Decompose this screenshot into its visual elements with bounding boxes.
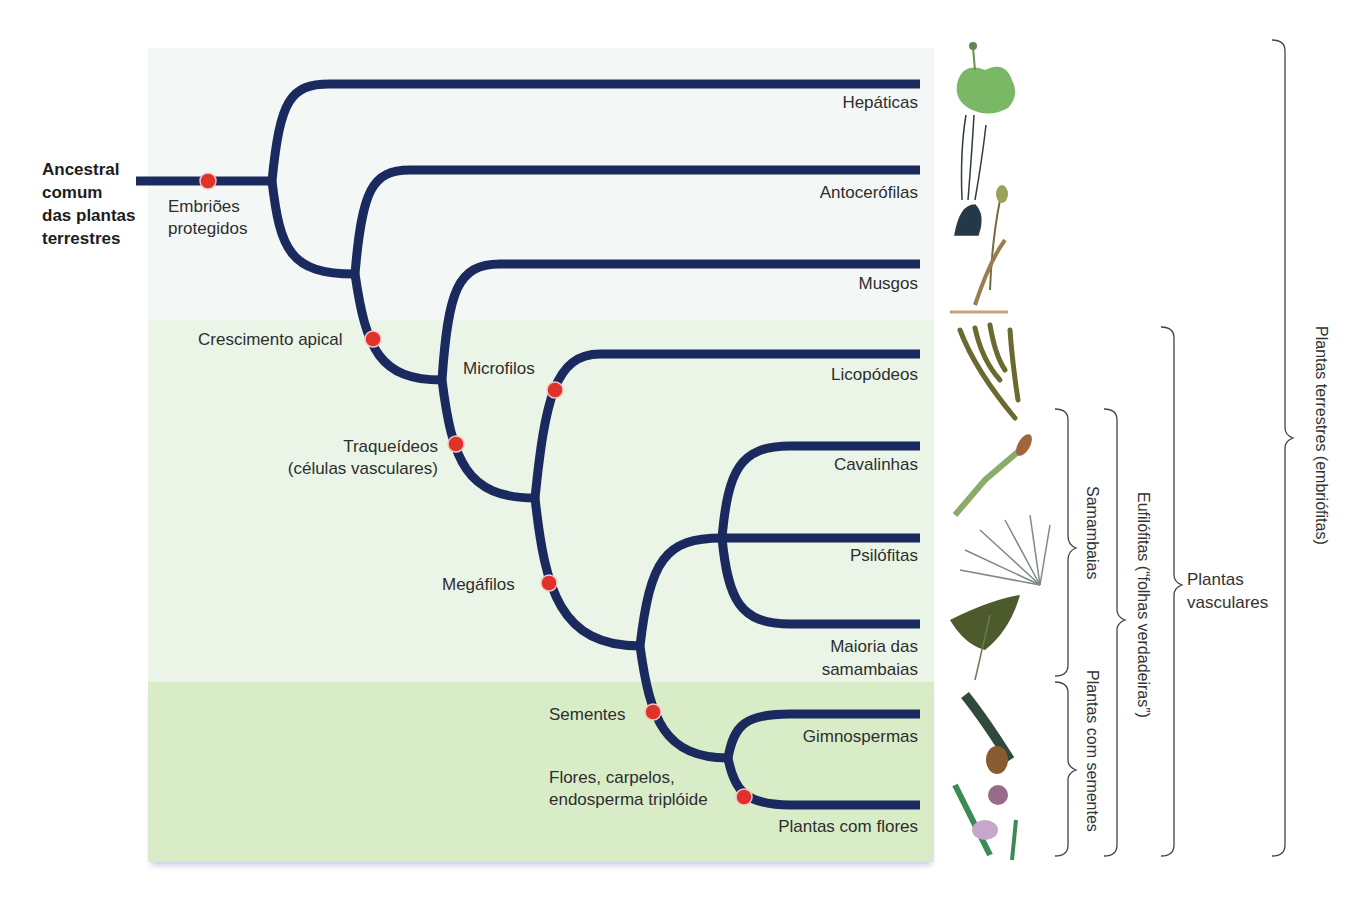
bracket-label-line: Plantas — [1187, 568, 1268, 591]
bracket-label-line: vasculares — [1187, 591, 1268, 614]
taxon-label-antocerofilas: Antocerófilas — [718, 182, 918, 204]
plant-illustrations — [950, 42, 1050, 860]
trait-label-crescimento: Crescimento apical — [198, 329, 343, 351]
bracket-plantas-com-sementes — [1055, 682, 1076, 856]
moss-illustration — [950, 185, 1008, 312]
root-label-line: Ancestral — [42, 158, 136, 181]
taxon-label-angiospermas: Plantas com flores — [718, 816, 918, 838]
trait-label-line: Flores, carpelos, — [549, 767, 708, 789]
hepatica-illustration — [957, 42, 1016, 114]
bracket-plantas-vasculares — [1161, 327, 1182, 856]
hornwort-illustration — [955, 115, 986, 235]
branch-node6 — [640, 538, 722, 646]
taxon-label-hepaticas: Hepáticas — [718, 92, 918, 114]
lycopod-illustration — [960, 325, 1018, 418]
branch-node7 — [640, 646, 728, 758]
trait-label-megafilos: Megáfilos — [442, 574, 515, 596]
branch-angiospermas — [728, 758, 920, 805]
iris-illustration — [955, 785, 1016, 860]
trait-label-line: protegidos — [168, 218, 247, 240]
root-label-line: comum — [42, 181, 136, 204]
root-label: Ancestral comum das plantas terrestres — [42, 158, 136, 250]
bracket-label-plantas-terrestres: Plantas terrestres (embriófitas) — [1312, 326, 1330, 545]
trait-marker-sementes — [645, 704, 661, 720]
bracket-samambaias — [1055, 409, 1076, 676]
trait-marker-traqueideos — [448, 436, 464, 452]
taxon-label-musgos: Musgos — [718, 273, 918, 295]
taxon-label-gimnospermas: Gimnospermas — [718, 726, 918, 748]
taxon-label-cavalinhas: Cavalinhas — [718, 454, 918, 476]
branch-node5 — [535, 498, 640, 646]
fern-illustration — [950, 595, 1020, 680]
taxon-label-line: Maioria das — [718, 635, 918, 658]
bracket-label-plantas-com-sementes: Plantas com sementes — [1083, 670, 1101, 832]
trait-label-traqueideos: Traqueídeos (células vasculares) — [278, 436, 438, 480]
trait-label-embrioes: Embriões protegidos — [168, 196, 247, 240]
psilotum-illustration — [960, 515, 1050, 585]
pine-illustration — [965, 695, 1010, 774]
trait-marker-embrioes — [200, 173, 216, 189]
trait-label-sementes: Sementes — [549, 704, 626, 726]
bracket-label-plantas-vasculares: Plantas vasculares — [1187, 568, 1268, 614]
branch-node3 — [355, 274, 442, 380]
taxon-label-line: samambaias — [718, 658, 918, 681]
trait-marker-flores — [736, 789, 752, 805]
trait-marker-microfilos — [547, 382, 563, 398]
taxon-label-samambaias: Maioria das samambaias — [718, 635, 918, 681]
bracket-label-eufilofitas: Eufilófitas (“folhas verdadeiras”) — [1134, 492, 1152, 718]
horsetail-illustration — [955, 432, 1035, 515]
root-label-line: terrestres — [42, 227, 136, 250]
root-label-line: das plantas — [42, 204, 136, 227]
trait-label-line: Traqueídeos — [278, 436, 438, 458]
bracket-plantas-terrestres — [1272, 40, 1293, 856]
branch-node2 — [272, 181, 355, 274]
bracket-eufilofitas — [1104, 409, 1125, 856]
bracket-label-samambaias: Samambaias — [1083, 486, 1101, 579]
taxon-label-licopodeos: Licopódeos — [718, 364, 918, 386]
trait-label-line: endosperma triplóide — [549, 789, 708, 811]
trait-marker-crescimento — [365, 331, 381, 347]
trait-label-line: (células vasculares) — [278, 458, 438, 480]
trait-label-flores: Flores, carpelos, endosperma triplóide — [549, 767, 708, 811]
taxon-label-psilofitas: Psilófitas — [718, 545, 918, 567]
trait-label-line: Embriões — [168, 196, 247, 218]
trait-label-microfilos: Microfilos — [463, 358, 535, 380]
trait-marker-megafilos — [541, 575, 557, 591]
